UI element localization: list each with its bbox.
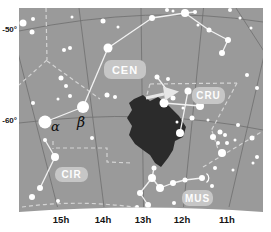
star: [228, 8, 232, 12]
star: [59, 76, 64, 81]
ra-label-11h: 11h: [219, 215, 235, 225]
star: [166, 77, 170, 81]
star: [62, 48, 66, 52]
star: [225, 141, 229, 145]
star: [172, 10, 175, 13]
star: [218, 130, 223, 135]
star: [250, 136, 255, 141]
star: [197, 24, 200, 27]
star: [51, 153, 59, 161]
star: [105, 93, 110, 98]
constellation-label-cen: CEN: [104, 60, 146, 79]
star: [216, 141, 220, 145]
star: [135, 205, 139, 209]
star: [236, 123, 240, 127]
star: [207, 28, 212, 33]
star-label-alpha: α: [51, 120, 60, 133]
ra-label-12h: 12h: [174, 215, 190, 225]
star: [165, 8, 169, 12]
star: [219, 50, 225, 56]
star: [234, 139, 237, 142]
star: [183, 178, 188, 183]
star: [182, 107, 185, 110]
star: [30, 30, 35, 35]
star: [252, 162, 255, 165]
star: [101, 19, 106, 24]
star: [210, 184, 214, 188]
star: [199, 175, 205, 181]
constellation-label-cru: CRU: [192, 87, 225, 104]
constellation-label-mus: MUS: [182, 190, 213, 206]
constellation-label-cir: CIR: [55, 167, 88, 182]
star: [245, 73, 249, 77]
star: [117, 26, 120, 29]
star: [31, 17, 35, 21]
star: [137, 190, 143, 196]
star: [71, 16, 74, 19]
star: [90, 136, 94, 140]
star: [29, 194, 35, 200]
star: [31, 101, 35, 105]
star: [239, 17, 242, 20]
ra-label-15h: 15h: [53, 215, 69, 225]
star: [170, 180, 176, 186]
star: [181, 9, 189, 17]
star: [20, 20, 27, 27]
star: [57, 98, 60, 101]
star: [176, 121, 179, 124]
star: [232, 169, 235, 172]
star: [210, 134, 216, 140]
star: [190, 116, 195, 121]
star: [145, 202, 151, 208]
star: [113, 95, 117, 99]
star: [176, 129, 184, 137]
star: [155, 75, 160, 80]
dec-label-minus60: -60°: [0, 117, 17, 125]
star: [185, 88, 192, 95]
ra-label-13h: 13h: [135, 215, 151, 225]
star: [255, 86, 259, 90]
star: [255, 155, 259, 159]
star: [160, 99, 169, 108]
star-chart: CEN CRU CIR MUS α β -50° -60° 15h 14h 13…: [0, 0, 271, 232]
star: [207, 119, 210, 122]
star: [193, 10, 197, 14]
star: [68, 94, 72, 98]
star-label-beta: β: [77, 115, 85, 129]
star: [172, 201, 176, 205]
star: [148, 174, 156, 182]
star: [223, 133, 227, 137]
star: [225, 37, 231, 43]
sky-map-canvas: [0, 0, 271, 232]
star: [64, 84, 68, 88]
star: [68, 46, 72, 50]
star: [218, 149, 226, 157]
star: [37, 185, 43, 191]
star: [104, 44, 113, 53]
star: [56, 199, 60, 203]
star: [250, 27, 253, 30]
ra-label-14h: 14h: [95, 215, 111, 225]
star: [149, 15, 155, 21]
star: [77, 101, 89, 113]
star: [39, 116, 52, 129]
star: [152, 166, 157, 171]
star: [43, 138, 47, 142]
star: [156, 184, 164, 192]
dec-label-minus50: -50°: [0, 26, 17, 34]
star: [213, 166, 217, 170]
